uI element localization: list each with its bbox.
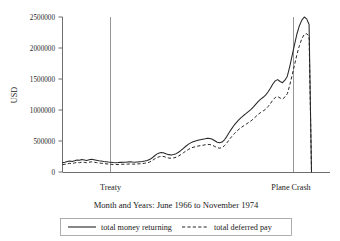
legend-label-total-money-returning: total money returning	[101, 223, 172, 232]
legend-label-total-deferred-pay: total deferred pay	[214, 223, 273, 232]
y-tick-label: 500000	[33, 138, 55, 146]
y-tick-label: 0	[51, 169, 55, 177]
y-tick-label: 2500000	[30, 14, 56, 22]
event-label-plane-crash: Plane Crash	[271, 183, 310, 192]
x-axis-caption: Month and Years: June 1966 to November 1…	[94, 200, 259, 210]
y-tick-label: 1500000	[30, 76, 56, 84]
y-tick-label: 1000000	[30, 107, 56, 115]
event-label-treaty: Treaty	[100, 183, 122, 192]
chart-canvas: 2500000 2000000 1500000 1000000 500000 0…	[0, 0, 340, 241]
chart-figure: 2500000 2000000 1500000 1000000 500000 0…	[0, 0, 340, 241]
y-tick-label: 2000000	[30, 45, 56, 53]
y-axis-title: USD	[10, 87, 19, 103]
